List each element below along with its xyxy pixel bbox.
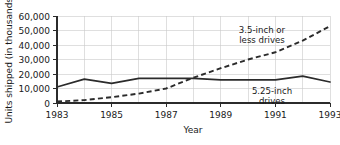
annotation-line: less drives [239, 35, 285, 45]
chart-canvas: 60,000 50,000 40,000 30,000 20,000 10,00… [0, 0, 340, 145]
annotation-line: drives [259, 96, 286, 106]
y-tick-label: 10,000 [19, 84, 51, 94]
y-tick-label: 60,000 [19, 12, 51, 22]
x-tick-label: 1987 [155, 110, 178, 120]
y-tick-label: 30,000 [19, 55, 51, 65]
x-axis-title: Year [182, 125, 202, 135]
y-tick-label: 0 [44, 99, 50, 109]
annotation-3-5-inch-drives: 3.5-inch or less drives [239, 25, 286, 45]
y-tick-label: 40,000 [19, 41, 51, 51]
annotation-line: 3.5-inch or [239, 25, 286, 35]
y-tick-label: 50,000 [19, 26, 51, 36]
line-chart-figure: 60,000 50,000 40,000 30,000 20,000 10,00… [0, 0, 340, 145]
y-tick-label: 20,000 [19, 70, 51, 80]
y-axis-title: Units shipped (in thousands) [4, 0, 14, 124]
x-tick-label: 1989 [209, 110, 232, 120]
chart-background [0, 0, 340, 145]
x-tick-label: 1985 [100, 110, 123, 120]
x-tick-label: 1993 [319, 110, 340, 120]
x-tick-label: 1991 [264, 110, 287, 120]
annotation-line: 5.25-inch [252, 86, 292, 96]
x-tick-label: 1983 [46, 110, 69, 120]
